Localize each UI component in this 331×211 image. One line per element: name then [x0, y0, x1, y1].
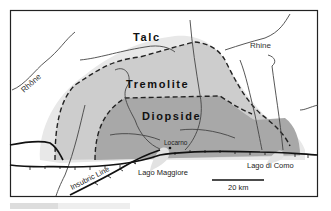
- lago-maggiore-label: Lago Maggiore: [138, 168, 188, 177]
- zone-label-diopside: Diopside: [142, 110, 201, 122]
- locarno-label: Locarno: [164, 139, 188, 146]
- scale-bar-label: 20 km: [228, 183, 248, 192]
- locarno-marker: [169, 147, 172, 150]
- rhine-label: Rhine: [250, 41, 271, 50]
- zone-label-talc: Talc: [133, 31, 161, 43]
- metamorphic-zone-map: Talc Tremolite Diopside Rhône Rhine Loca…: [0, 0, 331, 211]
- zone-label-tremolite: Tremolite: [126, 78, 189, 90]
- figure-caption-cutoff: [10, 203, 130, 209]
- lago-di-como-label: Lago di Como: [247, 161, 294, 170]
